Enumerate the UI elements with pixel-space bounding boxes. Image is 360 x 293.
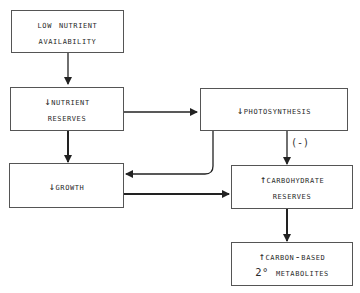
node-label-line2: reserves — [273, 187, 312, 203]
node-carbohydrate-reserves: ↑Carbohydrate reserves — [231, 165, 353, 209]
node-growth: ↓Growth — [9, 163, 124, 208]
node-nutrient-reserves: ↓Nutrient reserves — [10, 87, 124, 131]
node-photosynthesis: ↓Photosynthesis — [200, 88, 348, 131]
node-label-line2: reserves — [48, 109, 87, 125]
node-label-line1: Low nutrient — [38, 16, 98, 32]
node-label-line1: ↑Carbohydrate — [260, 171, 325, 187]
negative-effect-label: (-) — [291, 137, 309, 148]
node-carbon-based-secondary-metabolites: ↑Carbon-based 2° metabolites — [231, 242, 353, 286]
node-low-nutrient-availability: Low nutrient availability — [11, 10, 124, 53]
node-label-line2: availability — [39, 32, 97, 48]
node-label-line1: ↑Carbon-based — [259, 248, 326, 264]
node-label-line1: ↓Nutrient — [44, 93, 89, 109]
node-label-line2: 2° metabolites — [255, 264, 329, 280]
node-label-line1: ↓Growth — [49, 178, 85, 194]
node-label-line1: ↓Photosynthesis — [237, 102, 311, 118]
